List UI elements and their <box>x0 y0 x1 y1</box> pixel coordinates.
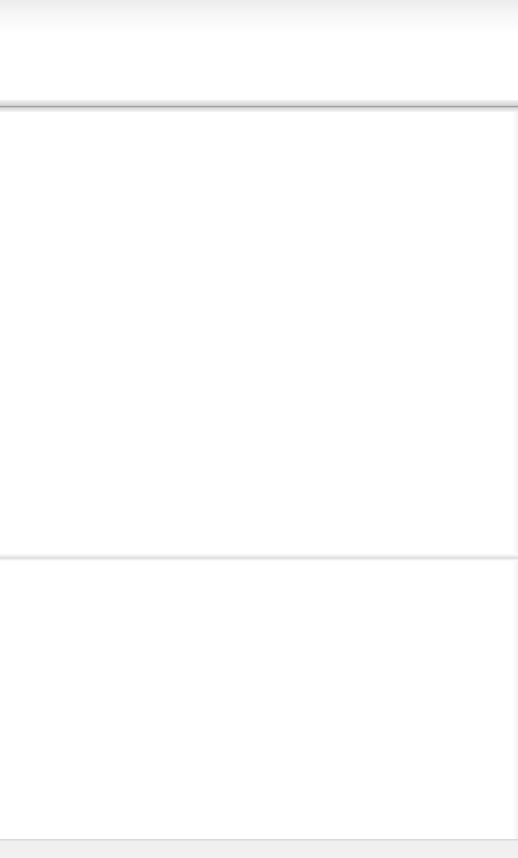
lower-content-area <box>0 561 512 839</box>
section-divider <box>0 553 518 561</box>
header-band <box>0 0 518 34</box>
upper-content-area <box>0 112 512 554</box>
footer-band <box>0 839 518 858</box>
scrollbar-track[interactable] <box>512 112 518 840</box>
header-divider <box>0 100 518 112</box>
